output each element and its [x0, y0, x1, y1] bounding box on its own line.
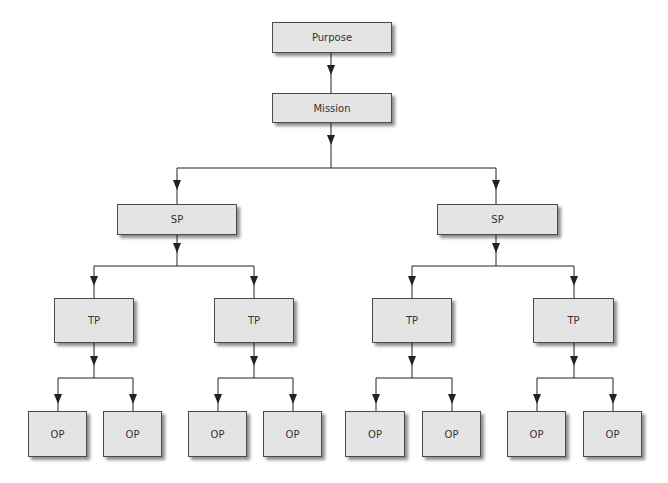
- node-label: OP: [530, 429, 544, 440]
- node-tp-1: TP: [54, 298, 134, 343]
- node-op-8: OP: [583, 411, 642, 457]
- node-op-1: OP: [28, 411, 87, 457]
- node-label: TP: [88, 315, 100, 326]
- node-label: Purpose: [312, 32, 352, 43]
- node-op-2: OP: [103, 411, 162, 457]
- node-label: OP: [606, 429, 620, 440]
- node-tp-3: TP: [372, 298, 452, 343]
- node-purpose: Purpose: [272, 22, 392, 53]
- node-op-4: OP: [263, 411, 322, 457]
- node-op-6: OP: [422, 411, 481, 457]
- node-label: Mission: [313, 103, 350, 114]
- node-label: TP: [406, 315, 418, 326]
- hierarchy-diagram: Purpose Mission SP SP TP TP TP TP OP OP …: [0, 0, 668, 483]
- node-label: TP: [248, 315, 260, 326]
- node-op-7: OP: [507, 411, 566, 457]
- node-label: SP: [171, 214, 183, 225]
- node-sp-left: SP: [117, 204, 237, 235]
- node-label: OP: [51, 429, 65, 440]
- node-label: TP: [567, 315, 579, 326]
- node-label: OP: [126, 429, 140, 440]
- node-mission: Mission: [272, 93, 392, 123]
- node-label: OP: [445, 429, 459, 440]
- node-label: OP: [368, 429, 382, 440]
- node-op-5: OP: [345, 411, 405, 457]
- connector-lines: [0, 0, 668, 483]
- node-label: OP: [286, 429, 300, 440]
- node-tp-4: TP: [533, 298, 614, 343]
- node-op-3: OP: [188, 411, 247, 457]
- node-tp-2: TP: [214, 298, 294, 343]
- node-label: OP: [211, 429, 225, 440]
- node-sp-right: SP: [437, 204, 558, 235]
- node-label: SP: [491, 214, 503, 225]
